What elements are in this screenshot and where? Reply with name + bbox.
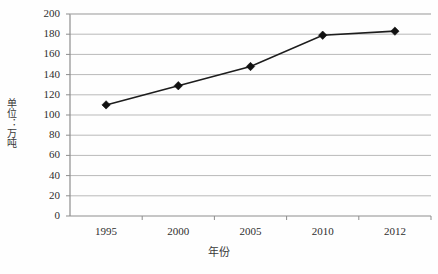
data-markers xyxy=(102,27,399,109)
line-chart: 单位：万吨 020406080100120140160180200 199520… xyxy=(0,0,438,274)
plot-area xyxy=(0,0,438,274)
data-point-marker xyxy=(102,101,110,109)
data-point-marker xyxy=(319,31,327,39)
data-point-marker xyxy=(174,82,182,90)
data-point-marker xyxy=(246,62,254,70)
tick-marks xyxy=(66,14,431,220)
gridlines xyxy=(70,14,431,196)
